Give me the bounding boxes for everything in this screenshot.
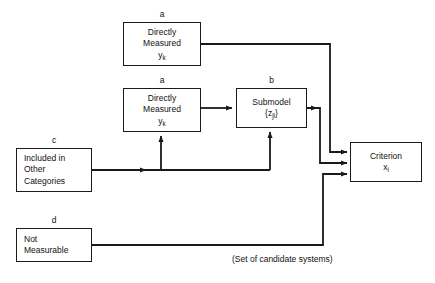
edge-d-to-criterion: [92, 174, 347, 245]
node-symbol-y: yk: [158, 50, 165, 62]
y-symbol: y: [158, 50, 162, 60]
node-line-included-3: Categories: [24, 176, 65, 188]
y-subscript: k: [163, 54, 166, 61]
brace-close: }: [275, 108, 278, 118]
node-tag-d: d: [16, 215, 92, 225]
node-line-submodel: Submodel: [252, 97, 290, 109]
node-criterion[interactable]: Criterion xi: [350, 142, 422, 182]
node-symbol-x: xi: [383, 162, 389, 174]
z-subscript: ji: [272, 112, 275, 119]
node-line-criterion: Criterion: [370, 151, 402, 163]
node-submodel[interactable]: Submodel {zji}: [236, 88, 307, 128]
node-line-measured: Measured: [143, 38, 181, 50]
node-tag-a-mid: a: [123, 75, 201, 85]
node-line-measured: Measured: [143, 104, 181, 116]
y-symbol: y: [158, 116, 162, 126]
node-tag-a-top: a: [123, 9, 201, 19]
y-subscript: k: [163, 120, 166, 127]
node-line-measurable: Measurable: [24, 245, 68, 257]
edge-submodel-to-criterion: [307, 108, 347, 163]
node-line-directly: Directly: [148, 93, 176, 105]
diagram-caption: (Set of candidate systems): [232, 254, 333, 265]
node-tag-b: b: [236, 75, 307, 85]
node-included-in-other-categories[interactable]: Included in Other Categories: [16, 148, 92, 192]
node-directly-measured-mid[interactable]: Directly Measured yk: [123, 88, 201, 132]
node-line-directly: Directly: [148, 27, 176, 39]
node-directly-measured-top[interactable]: Directly Measured yk: [123, 22, 201, 66]
node-line-not: Not: [24, 234, 37, 246]
node-line-included-1: Included in: [24, 153, 65, 165]
node-line-included-2: Other: [24, 164, 45, 176]
node-not-measurable[interactable]: Not Measurable: [16, 228, 92, 262]
node-symbol-z: {zji}: [265, 108, 278, 120]
node-tag-c: c: [16, 135, 92, 145]
flow-diagram: a a b c d Directly Measured yk Directly …: [0, 0, 435, 283]
x-subscript: i: [387, 166, 388, 173]
node-symbol-y: yk: [158, 116, 165, 128]
